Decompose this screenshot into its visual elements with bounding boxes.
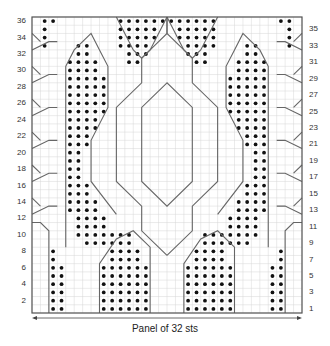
row-label-5: 5 (309, 271, 329, 280)
row-label-15: 15 (309, 189, 329, 198)
row-label-30: 30 (6, 65, 26, 74)
row-label-35: 35 (309, 24, 329, 33)
row-label-19: 19 (309, 156, 329, 165)
row-label-33: 33 (309, 41, 329, 50)
row-label-32: 32 (6, 49, 26, 58)
row-label-4: 4 (6, 279, 26, 288)
panel-caption: Panel of 32 sts (0, 323, 330, 334)
row-label-13: 13 (309, 205, 329, 214)
row-label-8: 8 (6, 246, 26, 255)
row-label-10: 10 (6, 230, 26, 239)
row-label-23: 23 (309, 123, 329, 132)
row-label-31: 31 (309, 57, 329, 66)
row-label-16: 16 (6, 181, 26, 190)
row-label-29: 29 (309, 74, 329, 83)
row-label-11: 11 (309, 222, 329, 231)
row-label-12: 12 (6, 213, 26, 222)
row-label-20: 20 (6, 148, 26, 157)
row-label-25: 25 (309, 107, 329, 116)
row-label-6: 6 (6, 263, 26, 272)
row-label-18: 18 (6, 164, 26, 173)
row-label-9: 9 (309, 238, 329, 247)
row-label-26: 26 (6, 98, 26, 107)
row-label-14: 14 (6, 197, 26, 206)
row-label-24: 24 (6, 115, 26, 124)
row-label-2: 2 (6, 296, 26, 305)
row-label-22: 22 (6, 131, 26, 140)
row-label-21: 21 (309, 139, 329, 148)
row-label-17: 17 (309, 172, 329, 181)
row-label-1: 1 (309, 304, 329, 313)
row-label-36: 36 (6, 16, 26, 25)
row-label-28: 28 (6, 82, 26, 91)
row-label-27: 27 (309, 90, 329, 99)
row-label-34: 34 (6, 33, 26, 42)
row-label-3: 3 (309, 287, 329, 296)
row-label-7: 7 (309, 255, 329, 264)
knitting-chart (0, 0, 330, 320)
